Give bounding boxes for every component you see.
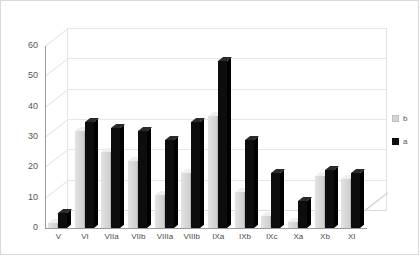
bar-V-b[interactable]	[48, 223, 57, 228]
bar-face	[298, 201, 307, 228]
bar-IXb-b[interactable]	[235, 192, 244, 228]
bar-Xb-b[interactable]	[315, 176, 324, 228]
bar-VIIIa-b[interactable]	[155, 195, 164, 228]
bar-XI-b[interactable]	[341, 179, 350, 228]
x-axis-tick-VI: VI	[72, 232, 99, 242]
bar-VIIb-a[interactable]	[138, 131, 147, 228]
y-axis-tick-10: 10	[12, 193, 38, 202]
bar-face	[48, 223, 57, 228]
legend-label-b: b	[403, 115, 407, 123]
bar-face	[351, 173, 360, 228]
bar-VIIIa-a[interactable]	[165, 140, 174, 228]
bar-group-XI	[340, 28, 367, 228]
x-axis-tick-V: V	[45, 232, 72, 242]
bar-side	[94, 119, 98, 228]
bar-XI-a[interactable]	[351, 173, 360, 228]
bar-VIIa-b[interactable]	[101, 152, 110, 228]
bar-face	[155, 195, 164, 228]
bar-face	[341, 179, 350, 228]
bar-group-IXb	[234, 28, 261, 228]
bar-face	[325, 170, 334, 228]
bar-group-VIIIa	[154, 28, 181, 228]
bar-side	[174, 137, 178, 228]
chart-legend: ba	[392, 112, 418, 158]
y-axis-tick-40: 40	[12, 102, 38, 111]
bar-face	[288, 222, 297, 228]
x-axis-tick-IXc: IXc	[258, 232, 285, 242]
x-axis-tick-IXb: IXb	[232, 232, 259, 242]
bar-face	[261, 216, 270, 228]
plot-area	[45, 28, 387, 228]
legend-label-a: a	[403, 138, 407, 146]
bar-face	[245, 140, 254, 228]
bar-group-IXa	[207, 28, 234, 228]
bar-IXa-a[interactable]	[218, 61, 227, 228]
bar-face	[208, 116, 217, 228]
bar-VIIIb-b[interactable]	[181, 173, 190, 228]
x-axis-tick-labels: VVIVIIaVIIbVIIIaVIIIbIXaIXbIXcXaXbXI	[45, 232, 367, 246]
bar-side	[280, 170, 284, 228]
chart-container: 0102030405060 VVIVIIaVIIbVIIIaVIIIbIXaIX…	[0, 0, 420, 256]
bar-side	[227, 58, 231, 228]
bar-face	[128, 161, 137, 228]
bar-face	[218, 61, 227, 228]
bar-face	[165, 140, 174, 228]
bar-group-VIIIb	[180, 28, 207, 228]
bar-side	[254, 137, 258, 228]
x-axis-tick-Xa: Xa	[285, 232, 312, 242]
x-axis-tick-IXa: IXa	[205, 232, 232, 242]
bar-IXa-b[interactable]	[208, 116, 217, 228]
bar-group-IXc	[260, 28, 287, 228]
bar-face	[191, 122, 200, 228]
x-axis-tick-VIIb: VIIb	[125, 232, 152, 242]
bar-face	[111, 128, 120, 228]
bar-side	[147, 128, 151, 228]
bar-group-VIIb	[127, 28, 154, 228]
bar-face	[138, 131, 147, 228]
bar-VIIIb-a[interactable]	[191, 122, 200, 228]
bar-face	[58, 213, 67, 228]
x-axis-tick-VIIIa: VIIIa	[152, 232, 179, 242]
bar-face	[75, 131, 84, 228]
y-axis-tick-0: 0	[12, 223, 38, 232]
bar-side	[307, 198, 311, 228]
bar-group-VIIa	[100, 28, 127, 228]
legend-item-b[interactable]: b	[392, 112, 418, 125]
bar-VI-a[interactable]	[85, 122, 94, 228]
bar-Xa-b[interactable]	[288, 222, 297, 228]
bar-VIIa-a[interactable]	[111, 128, 120, 228]
bar-face	[271, 173, 280, 228]
bar-side	[360, 170, 364, 228]
bar-series-group	[45, 28, 387, 228]
y-axis-tick-20: 20	[12, 162, 38, 171]
bar-face	[315, 176, 324, 228]
bar-Xb-a[interactable]	[325, 170, 334, 228]
bar-IXc-a[interactable]	[271, 173, 280, 228]
y-axis-tick-60: 60	[12, 41, 38, 50]
bar-VIIb-b[interactable]	[128, 161, 137, 228]
bar-VI-b[interactable]	[75, 131, 84, 228]
bar-side	[334, 167, 338, 228]
x-axis-tick-VIIIb: VIIIb	[178, 232, 205, 242]
bar-group-Xa	[287, 28, 314, 228]
bar-Xa-a[interactable]	[298, 201, 307, 228]
legend-swatch-icon-b	[392, 115, 399, 122]
bar-group-Xb	[314, 28, 341, 228]
y-axis-tick-50: 50	[12, 71, 38, 80]
x-axis-tick-VIIa: VIIa	[98, 232, 125, 242]
bar-group-V	[47, 28, 74, 228]
legend-item-a[interactable]: a	[392, 135, 418, 148]
x-axis-tick-XI: XI	[338, 232, 365, 242]
bar-face	[235, 192, 244, 228]
bar-V-a[interactable]	[58, 213, 67, 228]
bar-IXb-a[interactable]	[245, 140, 254, 228]
bar-side	[200, 119, 204, 228]
bar-side	[120, 125, 124, 228]
y-axis-tick-30: 30	[12, 132, 38, 141]
bar-IXc-b[interactable]	[261, 216, 270, 228]
bar-group-VI	[74, 28, 101, 228]
bar-face	[181, 173, 190, 228]
legend-swatch-icon-a	[392, 138, 399, 145]
x-axis-tick-Xb: Xb	[312, 232, 339, 242]
bar-face	[85, 122, 94, 228]
